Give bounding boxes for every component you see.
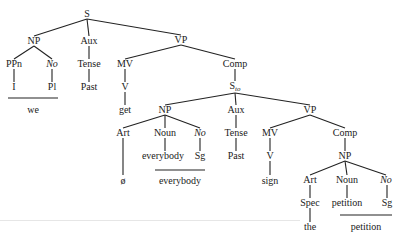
node-art: Art: [116, 128, 129, 138]
leaf-sign: sign: [262, 176, 279, 186]
node-ppn: PPn: [6, 59, 22, 69]
leaf-past: Past: [81, 82, 98, 92]
leaf-past-embedded: Past: [228, 151, 245, 161]
node-comp: Comp: [223, 59, 247, 69]
leaf-get: get: [119, 105, 131, 115]
node-s-to: Sto: [229, 81, 240, 93]
node-vp: VP: [175, 35, 188, 45]
node-aux-embedded: Aux: [227, 105, 244, 115]
scan-artifact-line: [0, 220, 300, 221]
node-no-object: No: [380, 175, 392, 185]
leaf-sg-object: Sg: [382, 198, 393, 208]
node-no-embedded: No: [194, 128, 206, 138]
leaf-the: the: [304, 222, 316, 232]
node-mv-embedded: MV: [262, 128, 278, 138]
node-aux: Aux: [80, 36, 97, 46]
leaf-null: ø: [121, 176, 126, 186]
leaf-pl: Pl: [48, 82, 56, 92]
node-tense: Tense: [77, 59, 100, 69]
node-noun-object: Noun: [336, 175, 358, 185]
node-spec: Spec: [300, 198, 319, 208]
node-no: No: [46, 59, 58, 69]
node-mv: MV: [117, 59, 133, 69]
leaf-petition: petition: [332, 198, 363, 208]
node-v: V: [121, 82, 128, 92]
node-noun: Noun: [154, 128, 176, 138]
node-s: S: [84, 9, 90, 19]
node-tense-embedded: Tense: [224, 128, 247, 138]
node-np-object: NP: [339, 151, 352, 161]
surface-we: we: [27, 105, 39, 115]
node-art-object: Art: [303, 175, 316, 185]
node-np-embedded: NP: [159, 105, 172, 115]
node-vp-embedded: VP: [304, 105, 317, 115]
s-to-subscript: to: [235, 85, 240, 93]
leaf-i: I: [12, 82, 15, 92]
node-v-embedded: V: [266, 151, 273, 161]
node-comp-embedded: Comp: [333, 128, 357, 138]
leaf-sg: Sg: [195, 151, 206, 161]
leaf-everybody: everybody: [142, 151, 184, 161]
surface-petition: petition: [351, 222, 382, 232]
node-np: NP: [28, 36, 41, 46]
surface-everybody: everybody: [159, 176, 201, 186]
